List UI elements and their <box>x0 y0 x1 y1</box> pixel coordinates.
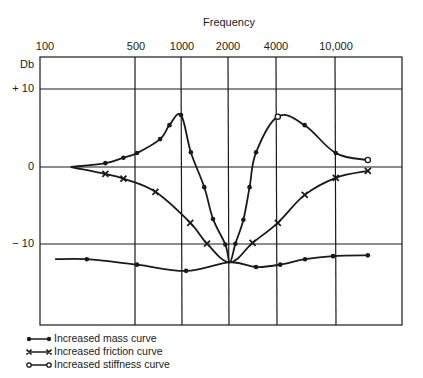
x-marker-icon <box>187 220 193 226</box>
legend-item-stiffness: Increased stiffness curve <box>26 358 170 371</box>
filled-dot-marker-icon <box>302 123 307 128</box>
open-circle-marker-icon <box>275 114 280 119</box>
filled-dot-marker-icon <box>121 155 126 160</box>
filled-dot-marker-icon <box>303 257 308 262</box>
filled-dot-marker-icon <box>223 242 228 247</box>
gridline-4000 <box>276 57 277 325</box>
plot-area <box>0 0 423 378</box>
filled-dot-marker-icon <box>135 262 140 267</box>
gridline-10000 <box>335 57 336 325</box>
series-increased-friction-curve <box>71 167 371 262</box>
series-line <box>71 114 368 262</box>
legend: Increased mass curve Increased friction … <box>26 332 170 371</box>
open-circle-line-icon <box>26 360 52 370</box>
legend-item-mass: Increased mass curve <box>26 332 170 345</box>
x-marker-icon <box>152 189 158 195</box>
filled-dot-marker-icon <box>103 161 108 166</box>
filled-dot-line-icon <box>26 334 52 344</box>
filled-dot-marker-icon <box>247 185 252 190</box>
series-increased-mass-curve <box>55 253 370 273</box>
x-marker-icon <box>275 220 281 226</box>
plot-border <box>40 57 402 325</box>
filled-dot-marker-icon <box>333 151 338 156</box>
filled-dot-marker-icon <box>202 185 207 190</box>
filled-dot-marker-icon <box>331 254 336 259</box>
legend-item-friction: Increased friction curve <box>26 345 170 358</box>
filled-dot-marker-icon <box>254 265 259 270</box>
series-line <box>71 167 368 262</box>
filled-dot-marker-icon <box>184 269 189 274</box>
filled-dot-marker-icon <box>135 151 140 156</box>
filled-dot-marker-icon <box>189 150 194 155</box>
x-marker-icon <box>302 192 308 198</box>
series-line <box>55 255 368 271</box>
filled-dot-marker-icon <box>211 217 216 222</box>
x-marker-line-icon <box>26 347 52 357</box>
x-marker-icon <box>250 240 256 246</box>
filled-dot-marker-icon <box>366 253 371 258</box>
legend-label-friction: Increased friction curve <box>54 345 163 358</box>
open-circle-marker-icon <box>365 157 370 162</box>
legend-label-mass: Increased mass curve <box>54 332 157 345</box>
filled-dot-marker-icon <box>233 241 238 246</box>
legend-label-stiffness: Increased stiffness curve <box>54 358 170 371</box>
gridline-2000 <box>228 57 229 325</box>
filled-dot-marker-icon <box>158 137 163 142</box>
grid <box>40 57 402 325</box>
series-layer <box>55 113 371 273</box>
filled-dot-marker-icon <box>254 150 259 155</box>
filled-dot-marker-icon <box>85 257 90 262</box>
filled-dot-marker-icon <box>278 262 283 267</box>
filled-dot-marker-icon <box>241 217 246 222</box>
filled-dot-marker-icon <box>167 123 172 128</box>
gridline-1000 <box>181 57 182 325</box>
series-increased-stiffness-curve <box>71 113 371 263</box>
filled-dot-marker-icon <box>179 113 184 118</box>
